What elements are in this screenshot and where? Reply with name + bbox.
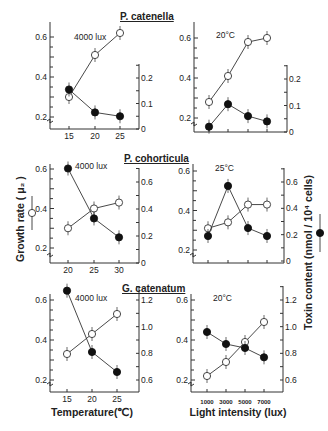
growth-point-open-circle: [222, 358, 229, 365]
left-tick-label: 0.2: [178, 245, 190, 255]
series-line-toxin: [207, 332, 264, 357]
x-title-light-intensity: Light intensity (lux): [190, 406, 287, 418]
x-tick-label: 20: [63, 265, 73, 275]
growth-point-open-circle: [91, 51, 98, 58]
growth-point-open-circle: [63, 350, 70, 357]
right-tick-label: 1.0: [285, 322, 297, 332]
left-tick-label: 0.4: [35, 204, 47, 214]
condition-label: 20°C: [213, 293, 232, 303]
panel-middle-right: 0.20.40.600.20.40.625°C: [178, 163, 298, 266]
legend-open-circle-icon: [28, 209, 35, 216]
figure: 0.20.40.600.10.2152025P. catenella4000 l…: [0, 0, 328, 431]
x-tick-label: 15: [62, 394, 72, 404]
growth-point-open-circle: [260, 318, 267, 325]
toxin-point-filled-circle: [115, 234, 122, 241]
y-left-legend: [28, 196, 35, 230]
growth-point-open-circle: [244, 38, 251, 45]
growth-point-open-circle: [224, 219, 231, 226]
left-tick-label: 0.2: [35, 112, 47, 122]
right-tick-label: 0.1: [289, 101, 301, 111]
y-left-title-group: Growth rate ( μ₂ ): [14, 176, 26, 262]
right-tick-label: 1.2: [285, 295, 297, 305]
toxin-point-filled-circle: [64, 165, 71, 172]
series-line-growth: [69, 33, 120, 97]
growth-point-open-circle: [203, 372, 210, 379]
right-tick-label: 0.4: [286, 203, 298, 213]
condition-label: 20°C: [216, 30, 235, 40]
series-line-toxin: [208, 186, 267, 236]
x-tick-label: 25: [115, 131, 125, 141]
series-line-growth: [209, 38, 267, 102]
right-tick-label: 0.8: [141, 348, 153, 358]
toxin-point-filled-circle: [263, 232, 270, 239]
growth-point-open-circle: [88, 330, 95, 337]
y-right-title: Toxin content (nmol / 10⁴ cells): [302, 175, 314, 330]
toxin-point-filled-circle: [263, 118, 270, 125]
right-tick-label: 0.6: [285, 375, 297, 385]
toxin-point-filled-circle: [205, 123, 212, 130]
condition-label: 4000 lux: [75, 293, 108, 303]
condition-label: 4000 lux: [75, 161, 108, 171]
axis-break-mark: [47, 119, 53, 123]
left-tick-label: 0.6: [179, 33, 191, 43]
species-title: P. cohorticula: [124, 153, 189, 164]
toxin-point-filled-circle: [244, 224, 251, 231]
panel-top-right: 0.20.40.600.10.220°C: [179, 22, 301, 137]
toxin-point-filled-circle: [224, 182, 231, 189]
x-tick-label: 3000: [219, 399, 233, 405]
series-line-toxin: [68, 169, 119, 238]
right-tick-label: 0.2: [289, 74, 301, 84]
left-tick-label: 0.2: [179, 113, 191, 123]
left-tick-label: 0.6: [176, 295, 188, 305]
toxin-point-filled-circle: [244, 113, 251, 120]
toxin-point-filled-circle: [260, 354, 267, 361]
species-title: G. catenatum: [122, 283, 185, 294]
x-tick-label: 7000: [257, 399, 271, 405]
right-tick-label: 0.8: [285, 348, 297, 358]
series-line-growth: [207, 322, 264, 376]
right-tick-label: 0.2: [141, 231, 153, 241]
toxin-point-filled-circle: [88, 348, 95, 355]
growth-point-open-circle: [205, 98, 212, 105]
left-tick-label: 0.6: [35, 295, 47, 305]
growth-point-open-circle: [90, 205, 97, 212]
right-tick-label: 0.6: [286, 177, 298, 187]
right-tick-label: 0: [141, 258, 146, 268]
toxin-point-filled-circle: [222, 340, 229, 347]
axis-break-mark: [47, 382, 53, 386]
series-line-growth: [208, 205, 267, 229]
x-tick-label: 25: [89, 265, 99, 275]
right-tick-label: 0.1: [141, 99, 153, 109]
toxin-point-filled-circle: [224, 101, 231, 108]
growth-point-open-circle: [224, 72, 231, 79]
growth-point-open-circle: [244, 201, 251, 208]
left-tick-label: 0.6: [178, 166, 190, 176]
left-tick-label: 0.2: [35, 375, 47, 385]
left-tick-label: 0.4: [179, 73, 191, 83]
right-tick-label: 0: [286, 256, 291, 266]
growth-point-open-circle: [263, 34, 270, 41]
left-tick-label: 0.4: [35, 72, 47, 82]
right-tick-label: 0.2: [141, 73, 153, 83]
condition-label: 25°C: [215, 163, 234, 173]
toxin-point-filled-circle: [204, 232, 211, 239]
toxin-point-filled-circle: [113, 368, 120, 375]
axis-break-mark: [47, 253, 53, 257]
series-line-toxin: [209, 104, 267, 127]
x-tick-label: 30: [114, 265, 124, 275]
toxin-point-filled-circle: [65, 86, 72, 93]
growth-point-open-circle: [113, 310, 120, 317]
x-tick-label: 15: [64, 131, 74, 141]
x-tick-label: 20: [90, 131, 100, 141]
panel-middle-left: 0.20.40.600.20.40.6202530P. cohorticula4…: [35, 153, 189, 275]
right-tick-label: 0: [141, 124, 146, 134]
axis-break-mark: [191, 122, 197, 126]
toxin-point-filled-circle: [91, 109, 98, 116]
left-tick-label: 0.2: [176, 375, 188, 385]
x-tick-label: 1000: [200, 399, 214, 405]
x-title-temperature: Temperature(℃): [51, 406, 133, 418]
left-tick-label: 0.2: [35, 243, 47, 253]
axis-break-mark: [190, 253, 196, 257]
right-tick-label: 1.2: [141, 295, 153, 305]
panel-bottom-right: 0.20.40.60.60.81.01.2100030005000700020°…: [176, 286, 297, 405]
